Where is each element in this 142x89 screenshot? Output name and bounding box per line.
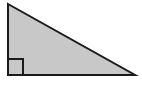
right-triangle-svg [0,0,142,89]
figure-canvas [0,0,142,89]
right-triangle-shape [8,4,135,75]
